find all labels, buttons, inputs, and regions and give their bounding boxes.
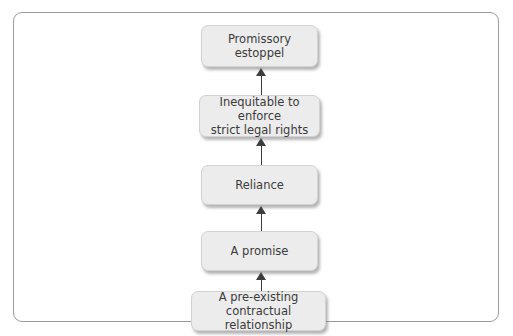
arrow-shaft [261, 73, 262, 95]
arrow-shaft [261, 143, 262, 165]
node-inequitable-to-enforce: Inequitable to enforce strict legal righ… [199, 95, 320, 137]
diagram-frame: Promissory estoppel Inequitable to enfor… [13, 12, 499, 322]
flowchart: Promissory estoppel Inequitable to enfor… [14, 13, 498, 321]
node-label: Promissory estoppel [222, 32, 297, 60]
node-pre-existing-relationship: A pre-existing contractual relationship [191, 291, 326, 331]
arrow-shaft [261, 211, 262, 231]
node-a-promise: A promise [201, 231, 318, 271]
arrow-shaft [261, 277, 262, 291]
node-label: Reliance [229, 178, 290, 192]
arrow-reliance-to-inequitable [256, 138, 267, 165]
node-label: Inequitable to enforce strict legal righ… [200, 95, 319, 137]
node-label: A promise [225, 244, 295, 258]
node-label: A pre-existing contractual relationship [192, 290, 325, 332]
arrow-promise-to-reliance [256, 206, 267, 231]
arrow-inequitable-to-estoppel [256, 68, 267, 95]
arrow-relationship-to-promise [256, 272, 267, 291]
node-promissory-estoppel: Promissory estoppel [201, 25, 318, 67]
node-reliance: Reliance [201, 165, 318, 205]
